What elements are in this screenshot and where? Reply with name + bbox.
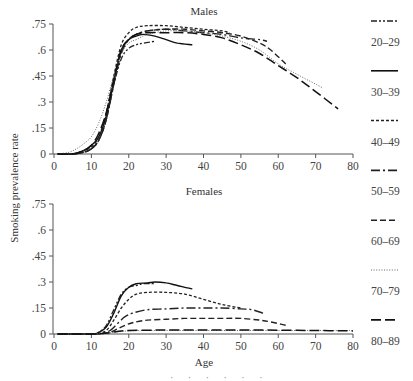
x-tick-label: 70 (310, 340, 322, 352)
series-line-40-49 (58, 292, 241, 334)
series-line-60-69 (58, 29, 286, 154)
series-line-40-49 (58, 25, 230, 154)
x-tick-label: 60 (273, 160, 285, 172)
legend-item: 70–79 (371, 270, 400, 297)
y-tick-label: .6 (37, 44, 46, 56)
x-tick-label: 10 (86, 160, 98, 172)
legend-label: 80–89 (371, 335, 400, 347)
y-tick-label: .75 (32, 198, 47, 210)
legend-item: 40–49 (371, 121, 400, 148)
panel-title-females: Females (186, 185, 223, 197)
x-tick-label: 0 (51, 160, 57, 172)
x-tick-label: 50 (235, 160, 247, 172)
females-panel: Females 010203040506070800.15.3.45.6.75 (32, 185, 359, 352)
y-tick-label: .15 (32, 122, 47, 134)
x-tick-label: 10 (86, 340, 98, 352)
y-tick-label: .3 (37, 276, 46, 288)
legend-label: 20–29 (371, 36, 400, 48)
males-panel: Males 010203040506070800.15.3.45.6.75 (32, 5, 359, 172)
y-tick-label: 0 (40, 148, 46, 160)
x-tick-label: 20 (123, 340, 135, 352)
x-tick-label: 50 (235, 340, 247, 352)
legend-label: 50–59 (371, 185, 400, 197)
x-tick-label: 40 (198, 340, 210, 352)
legend-label: 40–49 (371, 136, 400, 148)
legend-item: 80–89 (371, 320, 400, 347)
y-tick-label: 0 (40, 328, 46, 340)
y-tick-label: .75 (32, 18, 47, 30)
legend: 20–2930–3940–4950–5960–6970–7980–89 (371, 21, 400, 347)
x-tick-label: 70 (310, 160, 322, 172)
figure: Smoking prevalence rate Males 0102030405… (0, 0, 413, 381)
males-curves (58, 25, 338, 154)
series-line-30-39 (58, 34, 193, 154)
series-line-50-59 (58, 29, 267, 154)
legend-item: 60–69 (371, 220, 400, 247)
x-tick-label: 80 (347, 340, 359, 352)
males-axes: 010203040506070800.15.3.45.6.75 (32, 18, 359, 172)
legend-item: 50–59 (371, 170, 400, 197)
x-tick-label: 60 (273, 340, 285, 352)
y-axis-title: Smoking prevalence rate (8, 133, 20, 242)
females-axes: 010203040506070800.15.3.45.6.75 (32, 198, 359, 352)
y-tick-label: .45 (32, 70, 47, 82)
legend-item: 30–39 (371, 71, 400, 98)
panel-title-males: Males (191, 5, 218, 17)
legend-label: 30–39 (371, 86, 400, 98)
legend-item: 20–29 (371, 21, 400, 48)
y-tick-label: .15 (32, 302, 47, 314)
females-curves (58, 282, 353, 334)
x-tick-label: 30 (160, 340, 172, 352)
legend-label: 70–79 (371, 285, 400, 297)
x-tick-label: 40 (198, 160, 210, 172)
cropped-caption-fragment: · · · · · · (170, 372, 360, 381)
y-tick-label: .6 (37, 224, 46, 236)
x-axis-title: Age (195, 356, 213, 368)
y-tick-label: .45 (32, 250, 47, 262)
series-line-20-29 (58, 41, 155, 154)
series-line-60-69 (58, 318, 286, 334)
x-tick-label: 0 (51, 340, 57, 352)
legend-label: 60–69 (371, 235, 400, 247)
x-tick-label: 20 (123, 160, 135, 172)
x-tick-label: 30 (160, 160, 172, 172)
y-tick-label: .3 (37, 96, 46, 108)
x-tick-label: 80 (347, 160, 359, 172)
